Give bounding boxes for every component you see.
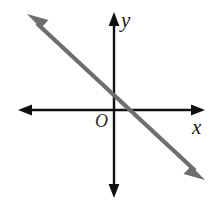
x-axis-left-arrowhead-icon — [18, 105, 32, 116]
graph-canvas — [0, 0, 223, 205]
line-segment — [37, 24, 195, 171]
origin-label: O — [95, 112, 108, 130]
y-axis-top-arrowhead-icon — [109, 12, 120, 26]
x-axis-right-arrowhead-icon — [191, 105, 205, 116]
coordinate-plane-figure: y x O — [0, 0, 223, 205]
y-axis-label: y — [121, 10, 130, 31]
y-axis-bottom-arrowhead-icon — [109, 184, 120, 198]
x-axis-label: x — [192, 117, 201, 138]
plotted-line — [27, 14, 205, 180]
x-axis — [18, 105, 205, 116]
y-axis — [109, 12, 120, 198]
